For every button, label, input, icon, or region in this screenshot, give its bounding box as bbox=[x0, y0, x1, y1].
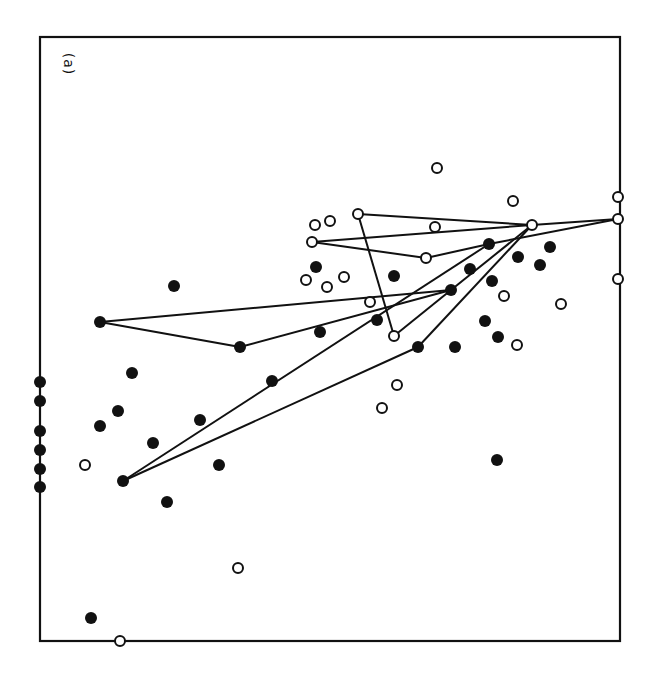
filled-point bbox=[34, 425, 46, 437]
filled-point bbox=[449, 341, 461, 353]
filled-point bbox=[147, 437, 159, 449]
filled-point bbox=[234, 341, 246, 353]
filled-point bbox=[117, 475, 129, 487]
open-point bbox=[392, 380, 402, 390]
filled-point bbox=[34, 463, 46, 475]
filled-point bbox=[34, 444, 46, 456]
connecting-line bbox=[240, 290, 451, 347]
open-point bbox=[512, 340, 522, 350]
open-point bbox=[556, 299, 566, 309]
open-point bbox=[325, 216, 335, 226]
filled-point bbox=[34, 481, 46, 493]
open-point bbox=[421, 253, 431, 263]
connecting-line bbox=[312, 225, 532, 242]
filled-point bbox=[412, 341, 424, 353]
filled-point bbox=[266, 375, 278, 387]
open-point bbox=[233, 563, 243, 573]
filled-point bbox=[483, 238, 495, 250]
open-point bbox=[322, 282, 332, 292]
filled-point bbox=[213, 459, 225, 471]
open-point bbox=[508, 196, 518, 206]
open-point bbox=[389, 331, 399, 341]
filled-point bbox=[34, 395, 46, 407]
filled-point bbox=[310, 261, 322, 273]
connecting-lines bbox=[100, 214, 618, 481]
scatter-plot bbox=[0, 0, 658, 681]
filled-point bbox=[34, 376, 46, 388]
filled-point bbox=[544, 241, 556, 253]
plot-frame bbox=[40, 37, 620, 641]
open-point bbox=[310, 220, 320, 230]
connecting-line bbox=[312, 242, 426, 258]
open-point bbox=[365, 297, 375, 307]
filled-point bbox=[491, 454, 503, 466]
panel-label: (a) bbox=[61, 53, 77, 76]
connecting-line bbox=[418, 225, 532, 347]
filled-point bbox=[112, 405, 124, 417]
filled-point bbox=[464, 263, 476, 275]
filled-point bbox=[512, 251, 524, 263]
open-point bbox=[80, 460, 90, 470]
open-point bbox=[499, 291, 509, 301]
open-point bbox=[115, 636, 125, 646]
connecting-line bbox=[100, 290, 451, 322]
filled-point bbox=[94, 420, 106, 432]
filled-point bbox=[479, 315, 491, 327]
filled-point bbox=[314, 326, 326, 338]
filled-point bbox=[388, 270, 400, 282]
open-point bbox=[307, 237, 317, 247]
filled-point bbox=[161, 496, 173, 508]
filled-point bbox=[486, 275, 498, 287]
connecting-line bbox=[100, 322, 240, 347]
open-point bbox=[377, 403, 387, 413]
connecting-line bbox=[358, 214, 532, 225]
filled-point bbox=[168, 280, 180, 292]
filled-point bbox=[445, 284, 457, 296]
open-point bbox=[613, 214, 623, 224]
filled-point bbox=[371, 314, 383, 326]
filled-point bbox=[94, 316, 106, 328]
filled-point bbox=[534, 259, 546, 271]
connecting-line bbox=[123, 347, 418, 481]
open-point bbox=[301, 275, 311, 285]
open-point bbox=[432, 163, 442, 173]
open-point bbox=[353, 209, 363, 219]
filled-point bbox=[85, 612, 97, 624]
open-point bbox=[527, 220, 537, 230]
open-point bbox=[430, 222, 440, 232]
filled-point bbox=[194, 414, 206, 426]
filled-point bbox=[126, 367, 138, 379]
open-point bbox=[613, 274, 623, 284]
open-point bbox=[613, 192, 623, 202]
filled-point bbox=[492, 331, 504, 343]
open-point bbox=[339, 272, 349, 282]
